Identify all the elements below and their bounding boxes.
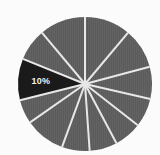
pie-chart-figure: 10% [0, 0, 160, 155]
pie-slice-label: 10% [32, 76, 51, 86]
pie-label-group: 10% [32, 76, 51, 86]
pie-chart-svg: 10% [0, 0, 160, 155]
